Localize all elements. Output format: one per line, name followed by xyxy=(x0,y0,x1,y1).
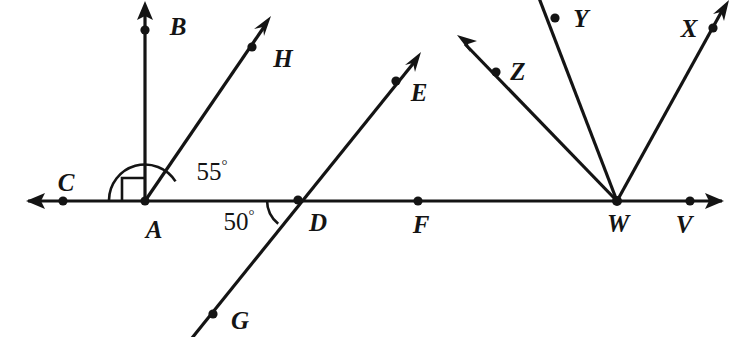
label-A: A xyxy=(146,217,163,242)
angle-value-50: 50 xyxy=(224,208,249,235)
point-C xyxy=(58,196,67,205)
label-Y: Y xyxy=(573,6,588,31)
point-V xyxy=(685,196,694,205)
point-A xyxy=(140,196,149,205)
label-E: E xyxy=(411,80,428,105)
arrow-H-up-right xyxy=(254,16,271,36)
label-X: X xyxy=(681,16,698,41)
degree-symbol-50: ° xyxy=(249,207,255,223)
point-H xyxy=(247,42,256,51)
label-F: F xyxy=(413,212,430,237)
point-E xyxy=(391,76,400,85)
label-V: V xyxy=(676,212,693,237)
label-B: B xyxy=(170,14,187,39)
angle-value-55: 55 xyxy=(197,158,222,185)
angle-label-50: 50° xyxy=(224,209,255,234)
label-C: C xyxy=(58,170,75,195)
arc-55-at-A xyxy=(109,165,176,200)
point-W xyxy=(612,196,622,206)
degree-symbol-55: ° xyxy=(222,157,228,173)
label-Z: Z xyxy=(510,59,525,84)
point-D xyxy=(293,195,302,204)
figure-canvas xyxy=(0,0,732,337)
arrow-X-up-right xyxy=(713,0,729,21)
point-G xyxy=(208,309,217,318)
geometry-figure: B H E C A D F G Z Y X W V 55° 50° xyxy=(0,0,732,337)
line-GE xyxy=(192,60,416,337)
label-W: W xyxy=(607,211,629,236)
label-G: G xyxy=(231,308,249,333)
point-Y xyxy=(550,13,559,22)
label-D: D xyxy=(309,210,327,235)
ray-WZ xyxy=(465,44,617,201)
point-F xyxy=(413,196,422,205)
point-B xyxy=(140,25,149,34)
arc-50-at-D xyxy=(267,200,278,224)
ray-WX xyxy=(617,9,723,201)
label-H: H xyxy=(273,46,292,71)
point-Z xyxy=(491,67,500,76)
right-angle-marker-CAB xyxy=(122,178,145,201)
point-X xyxy=(708,23,717,32)
arrow-Z-up-left xyxy=(457,35,477,52)
angle-label-55: 55° xyxy=(197,159,228,184)
